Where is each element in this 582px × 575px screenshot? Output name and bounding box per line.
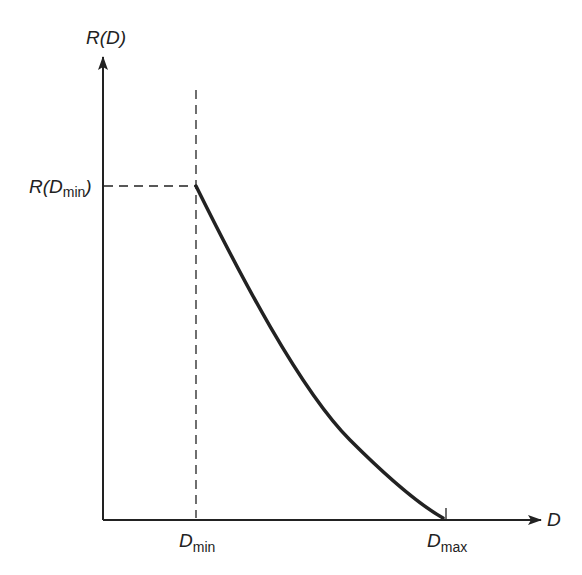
rd-curve [196,186,443,518]
y-axis-label: R(D) [86,27,126,48]
rate-distortion-diagram: R(D) D R(Dmin) Dmin Dmax [0,0,582,575]
x-axis-label: D [547,509,561,530]
dmax-label: Dmax [427,530,467,555]
rdmin-label: R(Dmin) [29,176,92,200]
dmin-label: Dmin [179,530,215,555]
